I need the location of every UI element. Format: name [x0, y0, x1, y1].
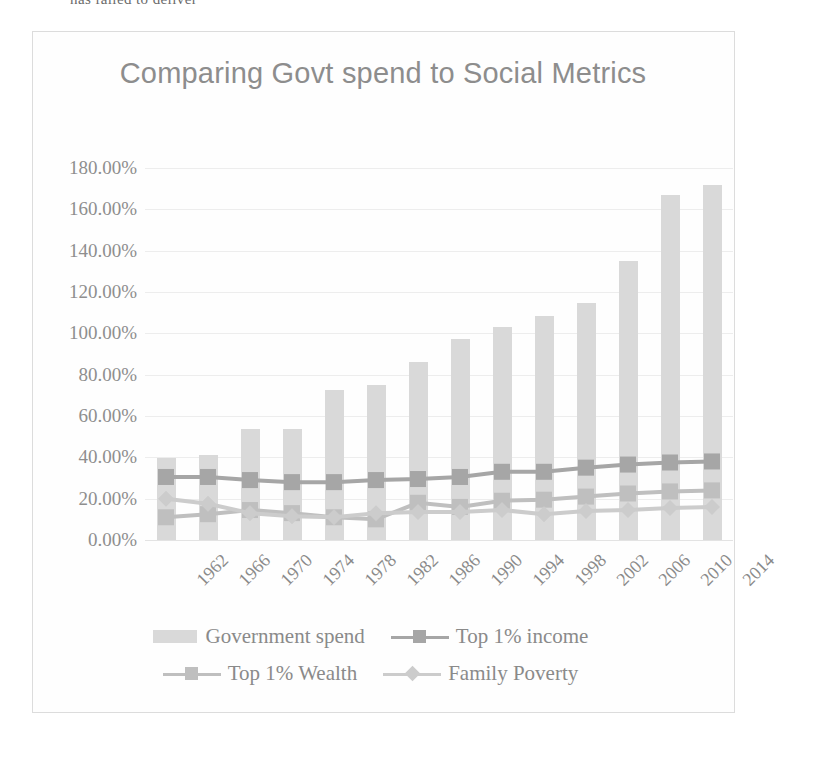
data-point-marker — [578, 503, 594, 519]
y-axis-tick-label: 140.00% — [69, 240, 137, 262]
data-point-marker — [578, 489, 594, 505]
x-axis-tick-label: 1966 — [235, 550, 275, 590]
x-axis-tick-label: 1978 — [361, 550, 401, 590]
data-point-marker — [578, 460, 594, 476]
plot-area — [145, 168, 733, 540]
x-axis-tick-label: 2014 — [739, 550, 779, 590]
data-point-marker — [704, 499, 720, 515]
data-point-marker — [452, 469, 468, 485]
data-point-marker — [536, 506, 552, 522]
data-point-marker — [662, 455, 678, 471]
data-point-marker — [158, 469, 174, 485]
gridline — [145, 540, 733, 541]
x-axis-tick-label: 1982 — [403, 550, 443, 590]
x-axis-tick-label: 2002 — [613, 550, 653, 590]
legend-label: Family Poverty — [448, 661, 578, 686]
x-axis-tick-label: 2006 — [655, 550, 695, 590]
y-axis-tick-label: 180.00% — [69, 157, 137, 179]
chart-title: Comparing Govt spend to Social Metrics — [103, 54, 663, 92]
data-point-marker — [704, 482, 720, 498]
legend-item[interactable]: Government spend — [153, 624, 365, 649]
data-point-marker — [326, 474, 342, 490]
y-axis-tick-label: 120.00% — [69, 281, 137, 303]
data-point-marker — [662, 483, 678, 499]
x-axis-tick-label: 1970 — [277, 550, 317, 590]
line-series-svg — [145, 168, 733, 540]
x-axis-tick-label: 1994 — [529, 550, 569, 590]
chart-frame: Comparing Govt spend to Social Metrics 1… — [32, 31, 735, 713]
legend-line-swatch — [383, 666, 441, 682]
data-point-marker — [704, 453, 720, 469]
legend-line-swatch — [163, 666, 221, 682]
data-point-marker — [284, 474, 300, 490]
y-axis-tick-label: 20.00% — [78, 488, 137, 510]
legend-marker-square-icon — [413, 630, 426, 643]
x-axis-tick-label: 1990 — [487, 550, 527, 590]
clipped-top-text: has failed to deliver — [70, 0, 197, 8]
legend-row-1: Government spendTop 1% income — [153, 624, 615, 649]
legend-bar-swatch — [153, 630, 197, 643]
y-axis-tick-label: 100.00% — [69, 322, 137, 344]
x-axis-tick-label: 2010 — [697, 550, 737, 590]
y-axis-tick-label: 60.00% — [78, 405, 137, 427]
data-point-marker — [410, 471, 426, 487]
x-axis-tick-label: 1962 — [193, 550, 233, 590]
chart-legend: Government spendTop 1% income Top 1% Wea… — [33, 624, 734, 686]
legend-item[interactable]: Top 1% income — [391, 624, 589, 649]
data-point-marker — [158, 491, 174, 507]
data-point-marker — [620, 502, 636, 518]
legend-label: Government spend — [206, 624, 365, 649]
y-axis-tick-label: 160.00% — [69, 198, 137, 220]
x-axis-tick-label: 1998 — [571, 550, 611, 590]
legend-item[interactable]: Top 1% Wealth — [163, 661, 357, 686]
data-point-marker — [620, 486, 636, 502]
x-axis-tick-label: 1974 — [319, 550, 359, 590]
x-axis-labels: 1962196619701974197819821986199019941998… — [145, 544, 733, 614]
legend-marker-square-icon — [185, 667, 198, 680]
data-point-marker — [368, 472, 384, 488]
y-axis-tick-label: 80.00% — [78, 364, 137, 386]
data-point-marker — [494, 464, 510, 480]
data-point-marker — [242, 472, 258, 488]
y-axis-labels: 180.00%160.00%140.00%120.00%100.00%80.00… — [33, 168, 137, 540]
legend-label: Top 1% Wealth — [228, 661, 357, 686]
x-axis-tick-label: 1986 — [445, 550, 485, 590]
legend-item[interactable]: Family Poverty — [383, 661, 578, 686]
data-point-marker — [536, 492, 552, 508]
data-point-marker — [620, 457, 636, 473]
data-point-marker — [536, 464, 552, 480]
data-point-marker — [662, 500, 678, 516]
data-point-marker — [200, 469, 216, 485]
legend-label: Top 1% income — [456, 624, 589, 649]
legend-marker-diamond-icon — [404, 666, 420, 682]
legend-row-2: Top 1% WealthFamily Poverty — [163, 661, 605, 686]
y-axis-tick-label: 0.00% — [88, 529, 137, 551]
legend-line-swatch — [391, 629, 449, 645]
y-axis-tick-label: 40.00% — [78, 446, 137, 468]
data-point-marker — [158, 509, 174, 525]
